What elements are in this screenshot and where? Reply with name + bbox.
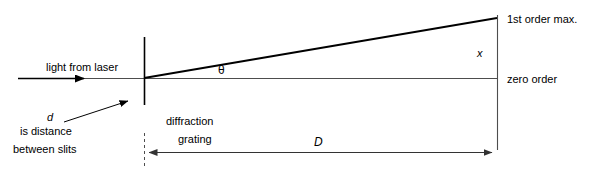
light-from-laser-label: light from laser — [46, 62, 118, 73]
d-pointer-arrow — [64, 101, 128, 122]
d-slit-spacing-label: d — [47, 112, 53, 123]
distance-D-label: D — [314, 136, 323, 148]
diffraction-grating-diagram: light from laser θ 1st order max. zero o… — [0, 0, 594, 172]
x-separation-label: x — [477, 48, 483, 59]
first-order-ray-line — [144, 18, 497, 78]
first-order-max-label: 1st order max. — [507, 14, 577, 25]
diagram-canvas — [0, 0, 594, 172]
theta-angle-label: θ — [218, 64, 225, 76]
diffraction-grating-label-line-2: grating — [178, 134, 212, 145]
d-description-line-1: is distance — [20, 126, 72, 137]
d-description-line-2: between slits — [13, 144, 77, 155]
zero-order-label: zero order — [507, 74, 557, 85]
diffraction-grating-label-line-1: diffraction — [166, 116, 214, 127]
